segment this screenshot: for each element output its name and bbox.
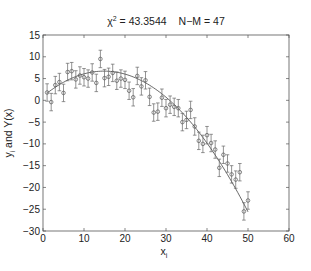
y-tick-label: 15 [29, 30, 41, 41]
x-tick-label: 60 [283, 233, 295, 244]
y-tick-label: 0 [34, 95, 40, 106]
x-tick-label: 30 [160, 233, 172, 244]
y-tick-label: 5 [34, 73, 40, 84]
y-tick-label: −20 [23, 182, 40, 193]
x-axis-label: xi [161, 245, 168, 259]
chart-figure: χ2 = 43.3544N−M = 47 0102030405060−30−25… [0, 0, 311, 271]
x-tick-label: 0 [40, 233, 46, 244]
x-tick-label: 50 [242, 233, 254, 244]
y-tick-label: −25 [23, 204, 40, 215]
x-tick-label: 10 [78, 233, 90, 244]
axes-box [43, 35, 289, 231]
y-tick-label: −5 [29, 117, 41, 128]
y-axis-label: yi and Y(x) [2, 108, 16, 157]
x-tick-label: 20 [119, 233, 131, 244]
y-tick-label: 10 [29, 51, 41, 62]
y-tick-label: −30 [23, 226, 40, 237]
y-tick-label: −10 [23, 138, 40, 149]
chart-title: χ2 = 43.3544N−M = 47 [107, 15, 225, 27]
y-tick-label: −15 [23, 160, 40, 171]
x-tick-label: 40 [201, 233, 213, 244]
